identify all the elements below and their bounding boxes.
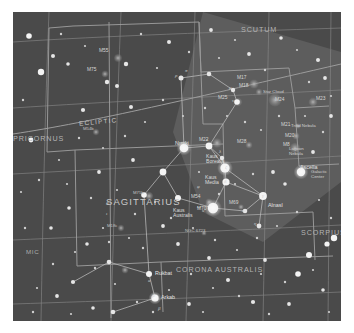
star-chart-canvas: SCUTUM PRICORNUS SAGITTARIUS MIC CORONA … bbox=[13, 12, 341, 321]
star-chart-figure: SCUTUM PRICORNUS SAGITTARIUS MIC CORONA … bbox=[0, 0, 354, 333]
chart-vector-layer bbox=[13, 12, 341, 321]
